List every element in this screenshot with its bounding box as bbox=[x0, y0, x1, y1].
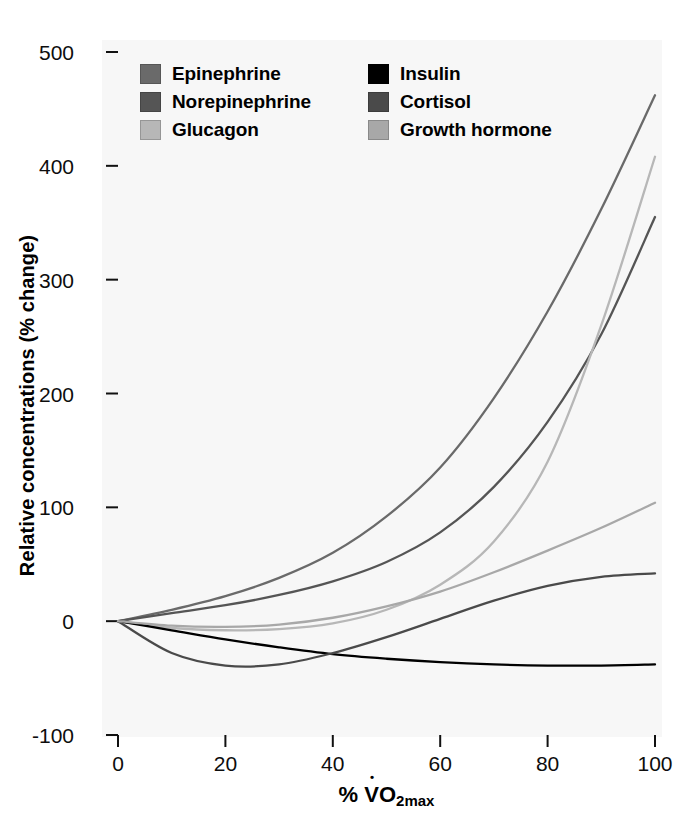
legend-swatch-icon bbox=[368, 92, 389, 112]
legend-label: Glucagon bbox=[172, 119, 259, 141]
y-tick-label: 400 bbox=[0, 155, 96, 176]
legend-swatch-icon bbox=[140, 64, 161, 84]
legend-label: Insulin bbox=[400, 63, 461, 85]
legend-item-norepinephrine[interactable]: Norepinephrine bbox=[140, 91, 368, 113]
y-tick-label: 200 bbox=[0, 383, 96, 404]
x-tick-label: 0 bbox=[112, 753, 124, 774]
legend-item-growth-hormone[interactable]: Growth hormone bbox=[368, 119, 560, 141]
x-axis-title-subscript: 2max bbox=[396, 792, 434, 809]
x-axis-title-o: O bbox=[379, 782, 396, 807]
y-tick-label: 300 bbox=[0, 269, 96, 290]
y-axis-title: Relative concentrations (% change) bbox=[16, 171, 39, 641]
y-tick-label: 0 bbox=[0, 611, 96, 632]
legend-swatch-icon bbox=[368, 64, 389, 84]
x-tick-label: 80 bbox=[536, 753, 559, 774]
legend-label: Norepinephrine bbox=[172, 91, 311, 113]
chart-legend: EpinephrineInsulinNorepinephrineCortisol… bbox=[140, 60, 560, 144]
x-tick-label: 40 bbox=[321, 753, 344, 774]
legend-label: Growth hormone bbox=[400, 119, 552, 141]
x-tick-label: 100 bbox=[637, 753, 672, 774]
y-tick-label: 500 bbox=[0, 42, 96, 63]
legend-item-cortisol[interactable]: Cortisol bbox=[368, 91, 560, 113]
x-tick-label: 60 bbox=[429, 753, 452, 774]
legend-swatch-icon bbox=[140, 92, 161, 112]
legend-item-insulin[interactable]: Insulin bbox=[368, 63, 560, 85]
legend-swatch-icon bbox=[368, 120, 389, 140]
legend-item-epinephrine[interactable]: Epinephrine bbox=[140, 63, 368, 85]
x-axis-title-vdot: V bbox=[364, 782, 379, 808]
y-tick-label: -100 bbox=[0, 725, 96, 746]
y-tick-label: 100 bbox=[0, 497, 96, 518]
legend-label: Cortisol bbox=[400, 91, 471, 113]
legend-item-glucagon[interactable]: Glucagon bbox=[140, 119, 368, 141]
x-tick-label: 20 bbox=[214, 753, 237, 774]
x-axis-title: % VO2max bbox=[118, 782, 655, 808]
legend-label: Epinephrine bbox=[172, 63, 281, 85]
legend-swatch-icon bbox=[140, 120, 161, 140]
x-axis-title-percent: % bbox=[339, 782, 359, 807]
chart-figure: 5004003002001000-100 020406080100 Relati… bbox=[0, 0, 700, 840]
